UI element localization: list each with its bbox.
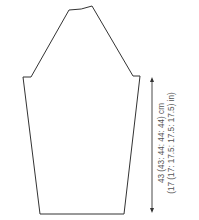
length-in: (17 (17: 17.5: 17.5: 17.5) in) <box>167 73 177 213</box>
sleeve-outline <box>23 6 140 214</box>
arrow-up-icon <box>150 77 154 82</box>
length-cm: 43 (43: 44: 44: 44) cm <box>157 73 167 213</box>
arrow-down-icon <box>150 208 154 213</box>
length-measurement-label: 43 (43: 44: 44: 44) cm (17 (17: 17.5: 17… <box>157 73 177 213</box>
